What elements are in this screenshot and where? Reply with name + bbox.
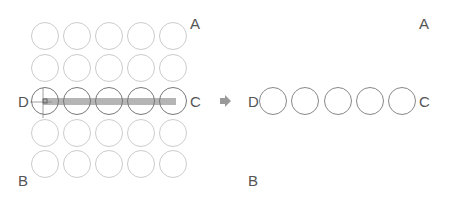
grid-circle: [128, 151, 155, 178]
left-label-d: D: [18, 93, 29, 110]
arrow-right-icon: [220, 95, 231, 107]
selection-bar: [43, 98, 176, 105]
grid-circle: [96, 23, 123, 50]
grid-circle: [32, 55, 59, 82]
row-circle: [357, 88, 384, 115]
grid-circle: [96, 151, 123, 178]
diagram-canvas: A B C D A B C D: [0, 0, 449, 197]
left-label-b: B: [18, 172, 28, 189]
right-label-d: D: [248, 93, 259, 110]
grid-circle: [160, 151, 187, 178]
grid-circle: [32, 23, 59, 50]
grid-circle: [128, 55, 155, 82]
row-circle: [325, 88, 352, 115]
grid-circle: [64, 120, 91, 147]
grid-circle: [64, 23, 91, 50]
grid-circle: [128, 23, 155, 50]
grid-circle: [160, 23, 187, 50]
grid-circle: [96, 120, 123, 147]
row-circle: [389, 88, 416, 115]
grid-circle: [96, 55, 123, 82]
right-row: [260, 88, 416, 115]
grid-circle: [128, 120, 155, 147]
row-circle: [292, 88, 319, 115]
right-label-b: B: [248, 172, 258, 189]
right-label-a: A: [419, 15, 429, 32]
left-label-c: C: [190, 93, 201, 110]
row-circle: [260, 88, 287, 115]
grid-circle: [64, 151, 91, 178]
left-label-a: A: [190, 15, 200, 32]
grid-circle: [64, 55, 91, 82]
right-label-c: C: [419, 93, 430, 110]
grid-circle: [160, 120, 187, 147]
grid-circle: [32, 151, 59, 178]
grid-circle: [160, 55, 187, 82]
grid-circle: [32, 120, 59, 147]
